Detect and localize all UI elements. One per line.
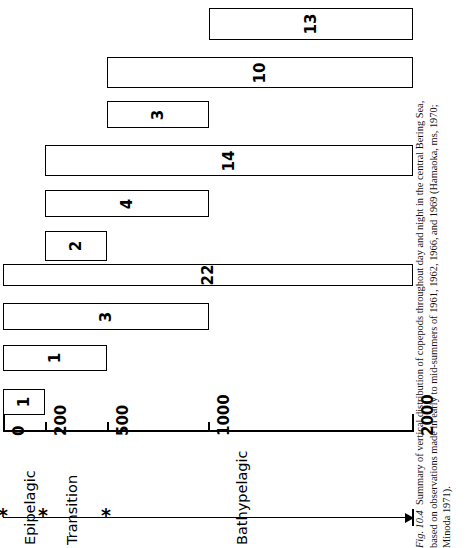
bar-value-label: 1 <box>48 353 63 363</box>
bar-value-label: 4 <box>120 198 135 208</box>
figure-caption: Fig. 10.4 Summary of vertical distributi… <box>413 0 469 548</box>
axis-tick-500 <box>107 422 109 431</box>
caption-line-1: Fig. 10.4 Summary of vertical distributi… <box>413 0 427 548</box>
axis-tick-label-200: 200 <box>52 405 70 436</box>
zone-marker-asterisk: * <box>38 506 48 525</box>
axis-tick-200 <box>45 422 47 431</box>
bar-row: 1 <box>3 389 45 415</box>
bar-row: 2 <box>45 231 107 261</box>
bar-value-label: 10 <box>253 62 268 83</box>
axis-tick-1000 <box>208 422 210 431</box>
bar-row: 1 <box>3 345 107 371</box>
zone-label-epipelagic: Epipelagic <box>22 470 38 545</box>
bar-row: 4 <box>45 190 209 217</box>
zone-label-transition: Transition <box>64 475 80 545</box>
caption-text-1: Summary of vertical distribution of cope… <box>414 101 425 505</box>
zone-marker-asterisk: * <box>0 506 8 525</box>
bar-row: 22 <box>3 264 413 286</box>
bar-value-label: 14 <box>222 150 237 171</box>
figure-10-4: 13 10 3 14 4 2 22 3 1 1 <box>0 0 469 548</box>
bar-value-label: 2 <box>69 241 84 251</box>
axis-tick-label-1000: 1000 <box>215 394 233 436</box>
bar-value-label: 13 <box>304 14 319 35</box>
axis-tick-0 <box>3 422 5 431</box>
bar-value-label: 1 <box>17 397 32 407</box>
bar-value-label: 22 <box>201 265 216 286</box>
zone-label-bathypelagic: Bathypelagic <box>234 450 250 545</box>
zone-marker-asterisk: * <box>101 506 111 525</box>
axis-tick-label-500: 500 <box>114 405 132 436</box>
bar-row: 14 <box>45 145 413 176</box>
figure-number: Fig. 10.4 <box>414 510 425 548</box>
caption-line-3: Minoda 1971). <box>440 0 454 548</box>
bar-row: 3 <box>3 303 209 330</box>
bar-row: 13 <box>209 8 413 40</box>
bar-value-label: 3 <box>151 109 166 119</box>
bar-row: 3 <box>107 101 209 128</box>
axis-tick-label-0: 0 <box>10 426 28 436</box>
caption-line-2: based on observations made in early to m… <box>427 0 441 548</box>
bar-row: 10 <box>107 57 413 88</box>
bar-value-label: 3 <box>99 311 114 321</box>
